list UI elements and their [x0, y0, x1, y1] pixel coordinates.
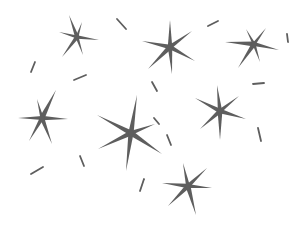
- sparkle-illustration: [0, 0, 307, 234]
- sparkles-canvas: [0, 0, 307, 234]
- sparkle-star-icon: [225, 28, 279, 68]
- star-ray: [217, 85, 222, 111]
- star-center: [218, 109, 223, 114]
- star-ray: [40, 117, 52, 144]
- star-ray: [168, 47, 173, 74]
- star-ray: [168, 20, 173, 47]
- star-center: [168, 45, 173, 50]
- sparkle-star-icon: [142, 20, 195, 74]
- sparkle-dash-icon: [80, 156, 84, 166]
- sparkle-star-icon: [18, 90, 68, 144]
- sparkle-dash-icon: [152, 82, 157, 91]
- star-ray: [97, 115, 132, 135]
- star-ray: [238, 43, 256, 68]
- star-center: [129, 131, 134, 136]
- sparkle-star-icon: [195, 85, 246, 140]
- star-ray: [188, 184, 212, 188]
- star-ray: [130, 131, 162, 154]
- sparkle-dash-icon: [208, 21, 218, 26]
- sparkle-dash-icon: [167, 135, 171, 145]
- star-ray: [254, 42, 280, 50]
- sparkle-star-icon: [97, 95, 162, 171]
- star-ray: [126, 133, 134, 171]
- sparkle-dash-icon: [31, 167, 43, 174]
- sparkle-dash-icon: [140, 179, 144, 191]
- star-center: [40, 116, 45, 121]
- star-center: [186, 184, 191, 189]
- star-ray: [186, 185, 196, 215]
- star-center: [252, 42, 257, 47]
- sparkle-star-icon: [162, 163, 212, 215]
- star-ray: [77, 35, 99, 40]
- star-ray: [40, 90, 56, 119]
- sparkle-dash-icon: [117, 19, 126, 29]
- star-ray: [218, 111, 223, 140]
- star-center: [75, 35, 80, 40]
- stars-layer: [18, 15, 279, 215]
- star-ray: [169, 45, 195, 61]
- star-ray: [128, 95, 137, 133]
- sparkle-dash-icon: [253, 83, 264, 84]
- sparkle-dash-icon: [154, 118, 159, 124]
- sparkle-star-icon: [59, 15, 99, 57]
- star-ray: [98, 131, 132, 149]
- star-ray: [225, 42, 254, 47]
- sparkle-dash-icon: [74, 75, 86, 80]
- sparkle-dash-icon: [287, 34, 288, 42]
- star-ray: [219, 109, 246, 119]
- sparkle-dash-icon: [31, 62, 35, 72]
- sparkle-dash-icon: [258, 128, 261, 141]
- star-ray: [42, 116, 68, 120]
- star-ray: [18, 116, 42, 120]
